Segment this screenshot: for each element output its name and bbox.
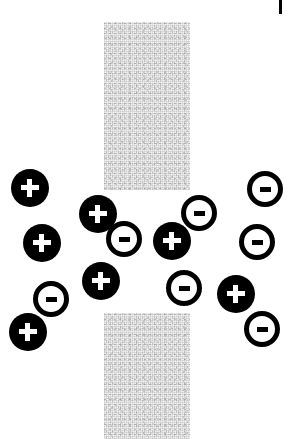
ion-membrane-diagram [0, 0, 294, 439]
ion-anion-8 [239, 224, 275, 260]
ion-cation-5 [153, 222, 191, 260]
minus-icon [119, 237, 130, 242]
plus-icon [227, 285, 245, 303]
plus-icon [21, 179, 39, 197]
ion-anion-7 [247, 171, 283, 207]
ion-anion-3 [106, 221, 142, 257]
minus-icon [179, 286, 190, 291]
plus-icon [92, 272, 110, 290]
plus-icon [163, 232, 181, 250]
ion-cation-11 [217, 275, 255, 313]
ion-anion-10 [166, 270, 202, 306]
minus-icon [46, 297, 57, 302]
plus-icon [89, 205, 107, 223]
plus-icon [19, 323, 37, 341]
ion-cation-13 [9, 313, 47, 351]
upper-membrane-slab [104, 22, 190, 190]
ion-cation-4 [23, 224, 61, 262]
ion-anion-12 [33, 281, 69, 317]
ion-anion-6 [181, 195, 217, 231]
ion-cation-9 [82, 262, 120, 300]
minus-icon [252, 240, 263, 245]
ion-cation-1 [11, 169, 49, 207]
minus-icon [260, 187, 271, 192]
corner-tick-mark [279, 0, 282, 14]
ion-anion-14 [244, 311, 280, 347]
minus-icon [257, 327, 268, 332]
minus-icon [194, 211, 205, 216]
lower-membrane-slab [104, 313, 190, 439]
plus-icon [33, 234, 51, 252]
